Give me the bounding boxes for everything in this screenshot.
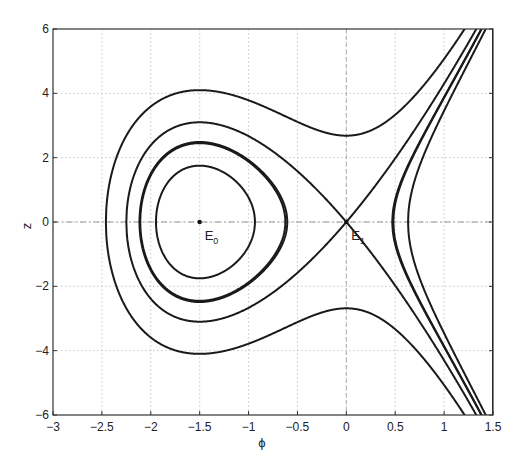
x-tick-label: −2 [144, 420, 158, 434]
phase-portrait-figure: −3−2.5−2−1.5−1−0.500.511.5−6−4−20246 E0E… [0, 0, 521, 473]
y-tick-label: 6 [42, 22, 49, 36]
zero-axes [53, 29, 493, 415]
x-axis-label: ϕ [258, 435, 265, 450]
x-tick-label: 0 [343, 420, 350, 434]
equilibrium-E0 [197, 220, 201, 224]
x-tick-label: −0.5 [286, 420, 310, 434]
y-tick-label: −2 [35, 279, 49, 293]
y-tick-label: 4 [42, 86, 49, 100]
x-tick-label: 1.5 [485, 420, 502, 434]
y-tick-label: 2 [42, 151, 49, 165]
level-curves [106, 0, 493, 447]
x-tick-label: −1.5 [188, 420, 212, 434]
y-axis-label: z [19, 223, 34, 230]
y-tick-label: −4 [35, 344, 49, 358]
label-E1: E1 [351, 228, 365, 246]
x-tick-label: 0.5 [387, 420, 404, 434]
x-tick-label: −3 [46, 420, 60, 434]
equilibrium-E1 [344, 220, 348, 224]
x-tick-label: 1 [441, 420, 448, 434]
x-tick-label: −2.5 [90, 420, 114, 434]
label-E0: E0 [205, 228, 219, 246]
y-tick-label: −6 [35, 408, 49, 422]
y-tick-label: 0 [42, 215, 49, 229]
x-tick-label: −1 [242, 420, 256, 434]
curve-outer-unbounded [106, 0, 493, 447]
